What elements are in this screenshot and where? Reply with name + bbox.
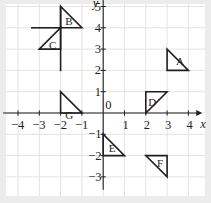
triangle-label-e: E	[109, 143, 116, 154]
x-axis-label: x	[200, 118, 206, 131]
y-tick-label-neg1: −1	[88, 128, 101, 141]
x-axis-arrowhead	[196, 110, 202, 116]
triangle-label-b: B	[65, 16, 72, 27]
y-tick-label-neg3: −3	[88, 171, 101, 184]
y-tick-label-2: 2	[95, 64, 101, 77]
triangle-label-c: C	[49, 40, 56, 51]
y-tick-label-4: 4	[95, 22, 101, 35]
x-tick-label-3: 3	[165, 119, 171, 132]
triangle-label-a: A	[176, 56, 184, 67]
y-tick-label-neg2: −2	[88, 150, 101, 163]
triangle-label-d: D	[148, 97, 156, 108]
x-tick-label-1: 1	[123, 119, 129, 132]
y-tick-label-1: 1	[95, 86, 101, 99]
triangle-label-g: G	[65, 110, 73, 121]
x-tick-label-neg3: −3	[32, 119, 45, 132]
x-tick-label-neg4: −4	[11, 119, 24, 132]
coordinate-plane-figure: −4−3−2−11234−3−2−1123450xyABCDEFG	[0, 0, 211, 203]
y-axis-label: y	[93, 0, 99, 9]
y-tick-label-3: 3	[95, 43, 101, 56]
triangle-label-f: F	[157, 158, 163, 169]
x-tick-label-4: 4	[186, 119, 192, 132]
x-tick-label-neg1: −1	[75, 119, 88, 132]
origin-label: 0	[105, 99, 111, 112]
x-tick-label-2: 2	[144, 119, 150, 132]
